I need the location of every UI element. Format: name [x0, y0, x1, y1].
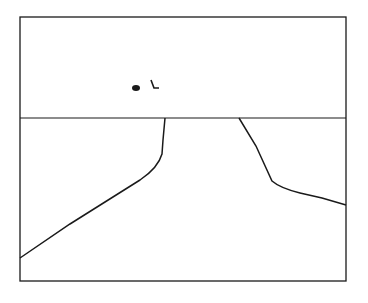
left-road-edge: [20, 118, 165, 258]
frame-border: [20, 17, 346, 281]
distant-object-blob: [132, 85, 140, 91]
distant-object-mark: [151, 80, 159, 88]
line-drawing: [0, 0, 368, 303]
right-road-edge: [239, 118, 346, 205]
